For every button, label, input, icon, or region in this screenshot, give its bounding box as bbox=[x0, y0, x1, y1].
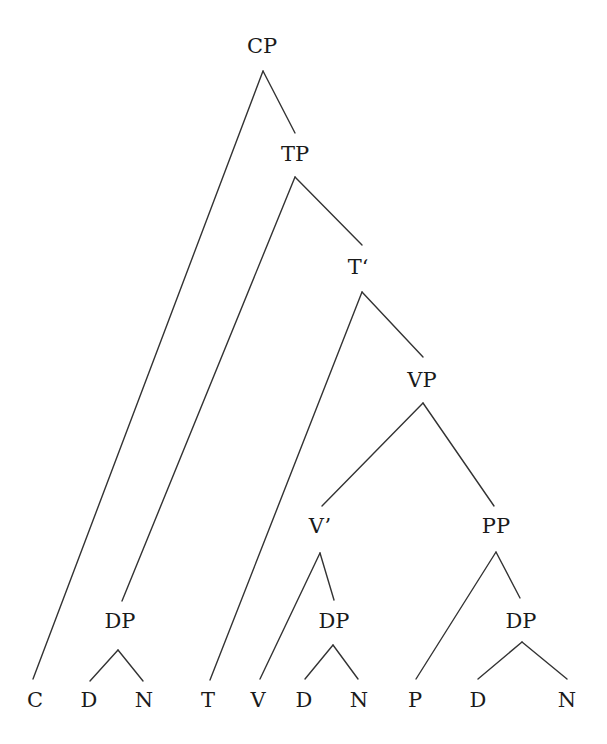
leaf-node-p: P bbox=[408, 688, 422, 712]
tree-node-dp1: DP bbox=[105, 609, 136, 633]
leaf-node-n1: N bbox=[135, 688, 153, 712]
leaf-node-c: C bbox=[27, 688, 43, 712]
tree-node-tbar: T‘ bbox=[348, 255, 369, 279]
leaf-node-n3: N bbox=[558, 688, 576, 712]
tree-node-pp: PP bbox=[482, 514, 510, 538]
leaf-node-n2: N bbox=[350, 688, 368, 712]
leaf-node-d2: D bbox=[296, 688, 313, 712]
leaf-node-d3: D bbox=[470, 688, 487, 712]
tree-node-vp: VP bbox=[406, 368, 436, 392]
tree-node-cp: CP bbox=[247, 34, 277, 58]
tree-node-dp2: DP bbox=[319, 609, 350, 633]
tree-node-tp: TP bbox=[281, 142, 309, 166]
tree-node-dp3: DP bbox=[506, 609, 537, 633]
leaf-node-t: T bbox=[201, 688, 215, 712]
leaf-node-v: V bbox=[249, 688, 266, 712]
leaf-node-d1: D bbox=[81, 688, 98, 712]
tree-node-vbar: V’ bbox=[308, 514, 332, 538]
syntax-tree-diagram: CPTPT‘VPV’PPDPDPDPCDNTVDNPDN bbox=[0, 0, 607, 744]
